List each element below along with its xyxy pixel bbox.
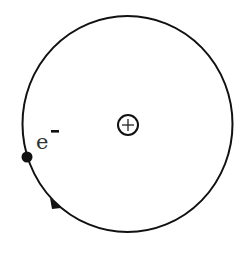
direction-arrow-icon	[50, 198, 61, 209]
negative-charge-sign	[51, 130, 59, 133]
electron-dot	[22, 152, 33, 163]
electron-label: e	[36, 130, 48, 154]
bohr-atom-diagram: e	[0, 0, 249, 256]
nucleus	[118, 115, 138, 135]
